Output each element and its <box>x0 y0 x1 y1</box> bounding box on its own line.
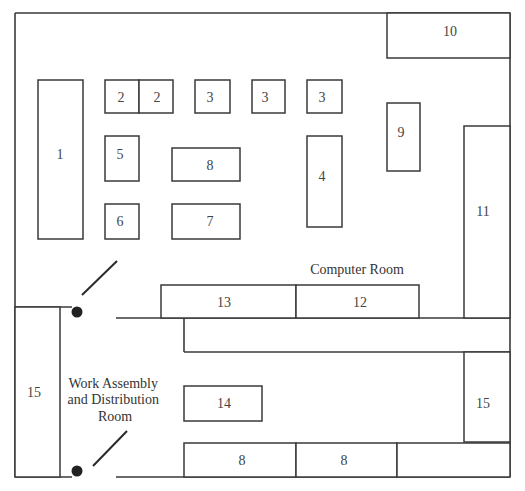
station-12[interactable]: 12 <box>296 285 419 318</box>
station-13[interactable]: 13 <box>161 285 296 318</box>
svg-text:15: 15 <box>476 396 490 411</box>
svg-text:10: 10 <box>443 24 457 39</box>
computer-room-label: Computer Room <box>310 262 404 277</box>
svg-text:1: 1 <box>57 147 64 162</box>
floor-plan: 1 2 2 3 3 3 4 5 6 7 8 9 10 11 Computer R… <box>0 0 525 491</box>
station-3c[interactable]: 3 <box>307 80 342 113</box>
station-3a[interactable]: 3 <box>195 80 230 113</box>
station-4[interactable]: 4 <box>307 136 342 227</box>
station-10[interactable]: 10 <box>387 13 510 58</box>
station-1[interactable]: 1 <box>38 80 83 239</box>
svg-text:12: 12 <box>353 295 367 310</box>
station-3b[interactable]: 3 <box>252 80 285 113</box>
station-14[interactable]: 14 <box>184 386 262 421</box>
empty-bench[interactable] <box>397 443 510 477</box>
station-2a[interactable]: 2 <box>105 80 139 113</box>
station-2b[interactable]: 2 <box>139 80 173 113</box>
door-lower[interactable] <box>72 431 128 477</box>
station-9[interactable]: 9 <box>387 103 420 171</box>
svg-text:8: 8 <box>341 453 348 468</box>
station-8-bottom-b[interactable]: 8 <box>296 443 397 477</box>
station-15-right[interactable]: 15 <box>464 352 510 442</box>
svg-text:9: 9 <box>398 125 405 140</box>
svg-text:15: 15 <box>27 385 41 400</box>
svg-text:3: 3 <box>262 90 269 105</box>
station-8-bottom-a[interactable]: 8 <box>184 443 296 477</box>
station-6[interactable]: 6 <box>105 204 139 239</box>
station-8-top[interactable]: 8 <box>172 148 240 181</box>
station-15-left[interactable]: 15 <box>15 307 60 477</box>
svg-text:2: 2 <box>118 90 125 105</box>
svg-text:3: 3 <box>319 90 326 105</box>
svg-text:8: 8 <box>207 158 214 173</box>
svg-text:2: 2 <box>154 90 161 105</box>
station-5[interactable]: 5 <box>105 136 139 181</box>
svg-text:14: 14 <box>217 396 231 411</box>
svg-text:6: 6 <box>117 214 124 229</box>
door-hinge-icon <box>72 466 83 477</box>
station-11[interactable]: 11 <box>464 126 510 318</box>
work-assembly-room-label: Work Assembly and Distribution Room <box>68 376 163 424</box>
svg-text:5: 5 <box>117 147 124 162</box>
svg-text:7: 7 <box>207 214 214 229</box>
svg-text:8: 8 <box>239 453 246 468</box>
door-upper[interactable] <box>72 261 118 318</box>
svg-text:4: 4 <box>319 169 326 184</box>
door-hinge-icon <box>72 307 83 318</box>
station-7[interactable]: 7 <box>172 204 240 239</box>
svg-text:11: 11 <box>476 204 489 219</box>
svg-text:3: 3 <box>207 90 214 105</box>
svg-text:13: 13 <box>217 295 231 310</box>
